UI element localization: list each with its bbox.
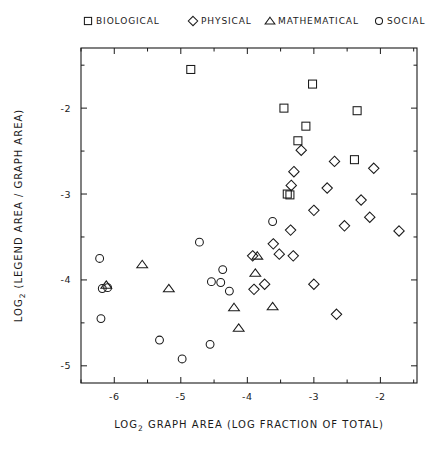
data-point-physical bbox=[356, 195, 366, 205]
y-tick-label: -2 bbox=[61, 103, 71, 114]
data-point-social bbox=[97, 315, 105, 323]
data-point-mathematical bbox=[233, 324, 244, 331]
x-tick-label: -6 bbox=[109, 391, 119, 402]
data-point-biological bbox=[280, 104, 288, 112]
legend-marker-social bbox=[375, 17, 382, 24]
data-point-mathematical bbox=[137, 260, 148, 267]
data-point-physical bbox=[259, 279, 269, 289]
data-point-physical bbox=[339, 221, 349, 231]
plot-canvas: BIOLOGICALPHYSICALMATHEMATICALSOCIAL-6-5… bbox=[0, 0, 435, 453]
x-tick-label: -3 bbox=[309, 391, 319, 402]
data-point-physical bbox=[285, 225, 295, 235]
data-point-social bbox=[96, 255, 104, 263]
y-tick-label: -5 bbox=[61, 360, 71, 371]
legend-label-biological: BIOLOGICAL bbox=[96, 16, 160, 26]
data-point-biological bbox=[350, 156, 358, 164]
data-point-social bbox=[196, 238, 204, 246]
data-point-physical bbox=[274, 249, 284, 259]
x-tick-label: -4 bbox=[242, 391, 252, 402]
data-point-mathematical bbox=[163, 284, 174, 291]
data-point-social bbox=[269, 218, 277, 226]
data-point-social bbox=[207, 278, 215, 286]
data-point-social bbox=[206, 340, 214, 348]
data-point-physical bbox=[309, 279, 319, 289]
data-point-biological bbox=[353, 107, 361, 115]
y-tick-label: -4 bbox=[61, 274, 71, 285]
data-point-physical bbox=[394, 226, 404, 236]
legend-label-mathematical: MATHEMATICAL bbox=[278, 16, 359, 26]
x-axis-title: LOG2 GRAPH AREA (LOG FRACTION OF TOTAL) bbox=[114, 419, 384, 433]
legend-marker-mathematical bbox=[265, 17, 275, 24]
data-point-mathematical bbox=[250, 269, 261, 276]
y-axis-title: LOG2 (LEGEND AREA / GRAPH AREA) bbox=[13, 109, 27, 322]
y-tick-label: -3 bbox=[61, 189, 71, 200]
data-point-physical bbox=[309, 205, 319, 215]
data-point-biological bbox=[302, 122, 310, 130]
data-point-social bbox=[104, 284, 112, 292]
data-point-mathematical bbox=[229, 303, 240, 310]
data-point-social bbox=[178, 355, 186, 363]
data-point-physical bbox=[288, 251, 298, 261]
x-tick-label: -2 bbox=[375, 391, 385, 402]
data-point-social bbox=[156, 336, 164, 344]
data-point-physical bbox=[286, 180, 296, 190]
data-point-physical bbox=[249, 284, 259, 294]
legend-label-social: SOCIAL bbox=[387, 16, 425, 26]
data-point-physical bbox=[365, 212, 375, 222]
data-point-physical bbox=[322, 183, 332, 193]
x-tick-label: -5 bbox=[176, 391, 186, 402]
legend-marker-physical bbox=[188, 16, 197, 25]
data-point-physical bbox=[268, 239, 278, 249]
data-point-social bbox=[217, 279, 225, 287]
legend-label-physical: PHYSICAL bbox=[201, 16, 252, 26]
data-point-social bbox=[225, 287, 233, 295]
data-point-physical bbox=[289, 166, 299, 176]
data-point-biological bbox=[309, 80, 317, 88]
data-point-physical bbox=[296, 145, 306, 155]
legend-marker-biological bbox=[84, 17, 91, 24]
data-point-physical bbox=[369, 163, 379, 173]
data-point-social bbox=[219, 266, 227, 274]
data-point-physical bbox=[329, 156, 339, 166]
data-point-physical bbox=[331, 309, 341, 319]
data-point-biological bbox=[187, 65, 195, 73]
scatter-plot-figure: BIOLOGICALPHYSICALMATHEMATICALSOCIAL-6-5… bbox=[0, 0, 435, 453]
data-point-biological bbox=[294, 137, 302, 145]
data-point-mathematical bbox=[267, 302, 278, 309]
